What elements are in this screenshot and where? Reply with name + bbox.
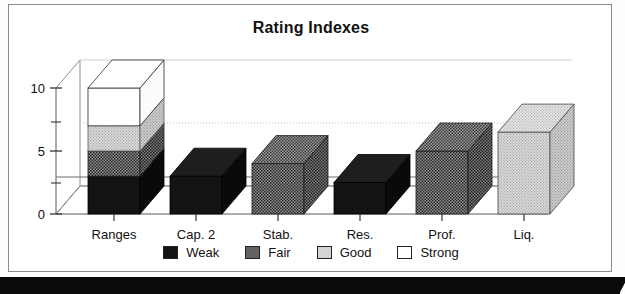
scan-edge-band xyxy=(0,277,620,294)
x-tick-label-cap-2: Cap. 2 xyxy=(177,227,215,242)
legend-label-good: Good xyxy=(340,245,372,260)
legend-item-good[interactable]: Good xyxy=(317,245,372,260)
chart-frame: Rating Indexes xyxy=(8,4,612,272)
legend-swatch-good-icon xyxy=(317,246,332,259)
legend-swatch-weak-icon xyxy=(163,246,178,259)
y-tick-label-5: 5 xyxy=(38,144,45,159)
legend-label-weak: Weak xyxy=(186,245,219,260)
legend-swatch-fair-icon xyxy=(245,246,260,259)
legend-item-fair[interactable]: Fair xyxy=(245,245,290,260)
legend-label-fair: Fair xyxy=(268,245,290,260)
legend-item-weak[interactable]: Weak xyxy=(163,245,219,260)
legend-item-strong[interactable]: Strong xyxy=(397,245,458,260)
bar-ranges[interactable] xyxy=(88,60,164,214)
x-tick-label-stab: Stab. xyxy=(263,227,293,242)
bar-liq[interactable] xyxy=(498,104,574,214)
x-tick-label-prof: Prof. xyxy=(428,227,455,242)
x-tick-label-ranges: Ranges xyxy=(92,227,137,242)
chart-legend: Weak Fair Good Strong xyxy=(9,245,613,260)
x-axis-labels: Ranges Cap. 2 Stab. Res. Prof. Liq. xyxy=(92,227,535,242)
legend-label-strong: Strong xyxy=(420,245,458,260)
y-axis: 10 5 0 xyxy=(31,81,62,222)
chart-plot-area: 10 5 0 xyxy=(9,5,613,273)
x-axis-ticks xyxy=(114,214,524,221)
y-tick-label-10: 10 xyxy=(31,81,45,96)
y-tick-label-0: 0 xyxy=(38,207,45,222)
x-tick-label-res: Res. xyxy=(347,227,374,242)
scanned-page: Rating Indexes xyxy=(0,0,625,294)
x-tick-label-liq: Liq. xyxy=(514,227,535,242)
legend-swatch-strong-icon xyxy=(397,246,412,259)
